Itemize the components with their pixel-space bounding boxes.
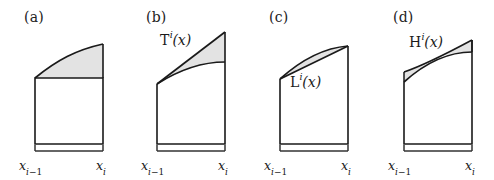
axis-label-left-c: xi−1 (264, 158, 287, 176)
axis-label-left-var-a: x (19, 158, 26, 173)
panel-c-graphic (248, 0, 372, 180)
function-label-sup-c: i (300, 71, 303, 82)
panel-d: (d) Hi(x) xi−1 xi (372, 0, 494, 180)
axis-label-left-var-b: x (141, 158, 148, 173)
axis-label-left-b: xi−1 (141, 158, 164, 176)
axis-label-right-sub-d: i (472, 167, 475, 177)
shaded-error-region-a (35, 44, 103, 78)
function-label-tangent-b: Ti(x) (160, 30, 191, 48)
axis-label-left-sub-d: i−1 (395, 167, 411, 177)
axis-label-right-b: xi (218, 158, 228, 176)
axis-label-right-sub-b: i (225, 167, 228, 177)
axis-label-left-sub-op-d: −1 (398, 167, 411, 177)
axis-label-left-sub-op-b: −1 (151, 167, 164, 177)
function-label-arg-d: (x) (424, 34, 443, 50)
region-outline-d (404, 40, 472, 144)
function-label-linear-c: Li(x) (290, 72, 321, 90)
function-label-sup-b: i (170, 29, 173, 40)
axis-label-right-var-c: x (341, 158, 348, 173)
function-curve-d (404, 52, 472, 82)
axis-label-left-var-d: x (388, 158, 395, 173)
panel-a: (a) xi−1 xi (0, 0, 124, 180)
function-label-arg-c: (x) (302, 74, 321, 90)
axis-label-right-sub-a: i (103, 167, 106, 177)
panel-c: (c) Li(x) xi−1 xi (248, 0, 372, 180)
axis-label-left-sub-op-a: −1 (29, 167, 42, 177)
function-label-sup-d: i (422, 31, 425, 42)
axis-label-right-sub-c: i (348, 167, 351, 177)
panel-tag-a: (a) (24, 9, 44, 25)
panel-a-graphic (0, 0, 124, 180)
axis-label-right-var-a: x (96, 158, 103, 173)
figure-panels-container: (a) xi−1 xi (b) Ti(x) xi−1 xi (0, 0, 494, 180)
axis-label-left-sub-c: i−1 (271, 167, 287, 177)
panel-d-graphic (372, 0, 494, 180)
axis-label-right-d: xi (465, 158, 475, 176)
panel-b: (b) Ti(x) xi−1 xi (124, 0, 248, 180)
axis-label-left-sub-b: i−1 (148, 167, 164, 177)
axis-label-left-a: xi−1 (19, 158, 42, 176)
panel-tag-b: (b) (146, 9, 167, 25)
function-label-base-b: T (160, 32, 169, 48)
rectangle-outline-a (35, 78, 103, 144)
axis-label-left-sub-op-c: −1 (274, 167, 287, 177)
axis-label-left-d: xi−1 (388, 158, 411, 176)
axis-label-right-c: xi (341, 158, 351, 176)
function-label-base-c: L (290, 74, 299, 90)
panel-tag-d: (d) (393, 9, 414, 25)
panel-tag-c: (c) (269, 9, 288, 25)
axis-label-right-var-d: x (465, 158, 472, 173)
axis-label-right-var-b: x (218, 158, 225, 173)
axis-label-left-sub-a: i−1 (26, 167, 42, 177)
function-label-arg-b: (x) (172, 32, 191, 48)
function-label-base-d: H (409, 34, 421, 50)
axis-label-right-a: xi (96, 158, 106, 176)
function-label-hermite-d: Hi(x) (409, 32, 443, 50)
axis-label-left-var-c: x (264, 158, 271, 173)
panel-b-graphic (124, 0, 248, 180)
